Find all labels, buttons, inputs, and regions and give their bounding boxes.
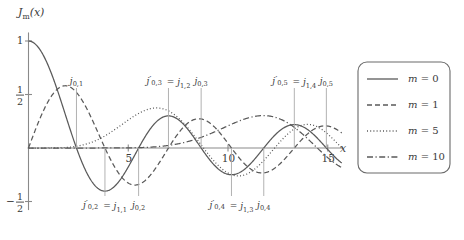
svg-text:2: 2 <box>17 96 23 107</box>
legend-label-m-0: m = 0 <box>408 73 439 84</box>
y-tick-label-neg-half: −12 <box>6 191 24 214</box>
svg-text:1: 1 <box>17 84 23 95</box>
annotations: j0,1j′0,2 = j1,1j0,2j′0,3 = j1,2j0,3j′0,… <box>68 75 333 214</box>
annotation-label-j04: j0,4 <box>255 200 270 212</box>
legend: m = 0m = 1m = 5m = 10 <box>358 62 450 173</box>
y-axis-title: Jm(x) <box>16 6 44 21</box>
annotation-label-j05p-j14: j′0,5 = j1,4 <box>270 75 316 90</box>
annotation-label-j02: j0,2 <box>130 200 145 212</box>
legend-label-m-5: m = 5 <box>408 125 439 136</box>
annotation-label-j03: j0,3 <box>192 76 207 88</box>
legend-label-m-10: m = 10 <box>408 151 445 162</box>
y-tick-label-half: 12 <box>16 84 24 107</box>
bessel-function-figure: 112−1251015Jm(x)xj0,1j′0,2 = j1,1j0,2j′0… <box>0 0 464 240</box>
annotation-label-j02p-j11: j′0,2 = j1,1 <box>81 199 127 214</box>
plot-canvas: 112−1251015Jm(x)xj0,1j′0,2 = j1,1j0,2j′0… <box>0 0 464 240</box>
svg-text:1: 1 <box>17 191 23 202</box>
annotation-label-j01: j0,1 <box>68 76 83 88</box>
x-axis-title: x <box>340 142 347 155</box>
legend-label-m-1: m = 1 <box>408 99 439 110</box>
annotation-label-j03p-j12: j′0,3 = j1,2 <box>145 75 191 90</box>
y-tick-label-1: 1 <box>17 34 24 46</box>
svg-text:Jm(x): Jm(x) <box>16 6 44 21</box>
annotation-label-j04p-j13: j′0,4 = j1,3 <box>208 199 254 214</box>
axes <box>25 32 343 210</box>
annotation-label-j05: j0,5 <box>318 76 333 88</box>
x-tick-label-10: 10 <box>222 152 235 164</box>
svg-text:2: 2 <box>17 203 23 214</box>
svg-text:−: − <box>6 195 15 207</box>
